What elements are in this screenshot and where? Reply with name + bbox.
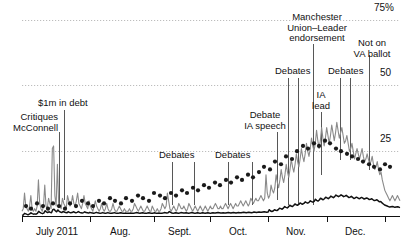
annotation-debates-nov: Debates — [275, 66, 310, 77]
series-scatter-dots — [24, 139, 392, 211]
scatter-dot — [180, 188, 184, 192]
scatter-dot — [334, 146, 338, 150]
scatter-dot — [24, 204, 28, 208]
scatter-dot — [339, 149, 343, 153]
scatter-dot — [317, 144, 321, 148]
annotation-debates-dec: Debates — [328, 66, 363, 77]
scatter-dot — [74, 204, 78, 208]
scatter-dot — [367, 162, 371, 166]
scatter-dot — [147, 199, 151, 203]
annotation-debate-ia-speech-line1: Debate — [232, 110, 298, 121]
scatter-dot — [124, 196, 128, 200]
scatter-dot — [130, 199, 134, 203]
scatter-dot — [356, 157, 360, 161]
x-axis-label-aug: Aug. — [110, 226, 131, 237]
scatter-dot — [57, 204, 61, 208]
scatter-dot — [383, 162, 387, 166]
scatter-dot — [268, 167, 272, 171]
scatter-dot — [257, 170, 261, 174]
x-axis-label-july: July 2011 — [36, 226, 78, 237]
scatter-dot — [108, 196, 112, 200]
scatter-dot — [279, 162, 283, 166]
x-axis-label-dec: Dec. — [345, 226, 366, 237]
annotation-debate-ia-speech: Debate IA speech — [232, 110, 298, 131]
x-axis-label-sept: Sept. — [168, 226, 191, 237]
scatter-dot — [295, 149, 299, 153]
x-axis-ticks — [23, 217, 386, 223]
scatter-dot — [328, 141, 332, 145]
scatter-dot — [290, 157, 294, 161]
scatter-dot — [262, 165, 266, 169]
annotation-critiques-mcconnell-line2: McConnell — [0, 123, 58, 134]
scatter-dot — [372, 165, 376, 169]
scatter-dot — [158, 193, 162, 197]
scatter-dot — [345, 152, 349, 156]
annotation-debate-ia-speech-line2: IA speech — [232, 121, 298, 132]
annotation-not-on-va-ballot: Not on VA ballot — [346, 38, 398, 59]
scatter-dot — [251, 175, 255, 179]
scatter-dot — [63, 207, 67, 211]
scatter-dot — [229, 180, 233, 184]
y-tick-label-50: 50 — [380, 67, 391, 78]
annotation-ia-lead-line1: IA — [308, 90, 334, 101]
scatter-dot — [152, 191, 156, 195]
scatter-dot — [136, 193, 140, 197]
scatter-dot — [378, 167, 382, 171]
scatter-dot — [350, 154, 354, 158]
annotation-debates-sept: Debates — [159, 150, 194, 161]
scatter-dot — [224, 178, 228, 182]
scatter-dot — [91, 204, 95, 208]
x-axis-label-oct: Oct. — [229, 226, 247, 237]
series-line-gray — [22, 122, 400, 211]
scatter-dot — [80, 199, 84, 203]
scatter-dot — [246, 173, 250, 177]
y-tick-label-75: 75% — [374, 2, 394, 13]
scatter-dot — [113, 199, 117, 203]
scatter-dot — [235, 175, 239, 179]
scatter-dot — [306, 146, 310, 150]
scatter-dot — [202, 183, 206, 187]
scatter-dot — [284, 154, 288, 158]
scatter-dot — [361, 160, 365, 164]
scatter-dot — [169, 191, 173, 195]
scatter-dot — [207, 186, 211, 190]
scatter-dot — [29, 207, 33, 211]
scatter-dot — [185, 191, 189, 195]
scatter-dot — [191, 186, 195, 190]
scatter-dot — [163, 196, 167, 200]
scatter-dot — [240, 178, 244, 182]
scatter-dot — [51, 201, 55, 205]
scatter-dot — [301, 144, 305, 148]
scatter-dot — [213, 180, 217, 184]
scatter-dot — [68, 201, 72, 205]
scatter-dot — [46, 207, 50, 211]
annotation-va-ballot-line2: VA ballot — [346, 49, 398, 60]
scatter-dot — [102, 201, 106, 205]
scatter-dot — [35, 201, 39, 205]
scatter-dot — [141, 196, 145, 200]
annotation-va-ballot-line1: Not on — [346, 38, 398, 49]
scatter-dot — [218, 183, 222, 187]
scatter-dot — [119, 201, 123, 205]
scatter-dot — [86, 201, 90, 205]
scatter-dot — [174, 193, 178, 197]
scatter-dot — [388, 165, 392, 169]
y-tick-label-25: 25 — [380, 133, 391, 144]
annotation-critiques-mcconnell: Critiques McConnell — [0, 112, 58, 133]
scatter-dot — [273, 160, 277, 164]
annotation-manchester-line1: Manchester — [272, 12, 362, 23]
scatter-dot — [97, 199, 101, 203]
scatter-dot — [323, 139, 327, 143]
chart-container: 75% 50 25 July 2011 Aug. Sept. Oct. Nov.… — [0, 0, 414, 249]
annotation-ia-lead: IA lead — [308, 90, 334, 111]
x-axis-label-nov: Nov. — [286, 226, 306, 237]
scatter-dot — [312, 141, 316, 145]
annotation-debates-oct: Debates — [215, 150, 250, 161]
annotation-ia-lead-line2: lead — [308, 101, 334, 112]
scatter-dot — [196, 188, 200, 192]
scatter-dot — [41, 204, 45, 208]
annotation-1m-in-debt: $1m in debt — [38, 98, 88, 109]
annotation-critiques-mcconnell-line1: Critiques — [0, 112, 58, 123]
